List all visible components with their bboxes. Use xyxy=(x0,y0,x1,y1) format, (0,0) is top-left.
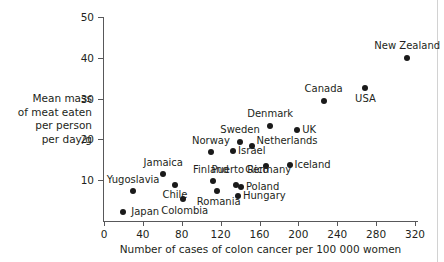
data-point xyxy=(267,123,273,129)
x-tick-mark xyxy=(221,221,222,226)
data-point-label: Hungary xyxy=(243,191,286,201)
y-axis-title: Mean mass of meat eaten per person per d… xyxy=(0,92,92,146)
x-axis-line xyxy=(103,221,418,222)
x-tick-label: 80 xyxy=(175,229,188,240)
data-point-label: USA xyxy=(355,94,376,104)
data-point-label: Poland xyxy=(246,182,279,192)
y-tick-mark xyxy=(98,17,103,18)
data-point-label: Romania xyxy=(197,197,241,207)
y-tick-label: 50 xyxy=(81,12,94,23)
data-point-label: Yugoslavia xyxy=(107,175,160,185)
data-point xyxy=(160,171,166,177)
y-tick-mark xyxy=(98,99,103,100)
data-point xyxy=(230,148,236,154)
data-point xyxy=(130,188,136,194)
data-point xyxy=(294,127,300,133)
x-tick-mark xyxy=(143,221,144,226)
x-tick-label: 240 xyxy=(327,229,347,240)
x-tick-mark xyxy=(337,221,338,226)
y-tick-label: 10 xyxy=(81,175,94,186)
data-point xyxy=(287,162,293,168)
x-tick-mark xyxy=(376,221,377,226)
x-axis-title: Number of cases of colon cancer per 100 … xyxy=(103,243,418,255)
x-tick-label: 0 xyxy=(101,229,108,240)
x-tick-mark xyxy=(298,221,299,226)
data-point-label: Colombia xyxy=(161,206,208,216)
y-tick-mark xyxy=(98,58,103,59)
y-tick-label: 20 xyxy=(81,134,94,145)
data-point-label: Japan xyxy=(131,207,159,217)
data-point-label: Iceland xyxy=(294,160,330,170)
y-tick-label: 30 xyxy=(81,93,94,104)
x-tick-mark xyxy=(260,221,261,226)
x-tick-label: 200 xyxy=(288,229,308,240)
y-tick-mark xyxy=(98,180,103,181)
data-point xyxy=(214,188,220,194)
x-tick-label: 320 xyxy=(405,229,425,240)
y-tick-label: 40 xyxy=(81,53,94,64)
x-tick-mark xyxy=(104,221,105,226)
data-point-label: Denmark xyxy=(247,109,293,119)
x-tick-label: 120 xyxy=(211,229,231,240)
data-point-label: New Zealand xyxy=(374,41,440,51)
data-point xyxy=(362,85,368,91)
data-point xyxy=(208,149,214,155)
y-axis-line xyxy=(103,17,104,222)
x-tick-mark xyxy=(415,221,416,226)
data-point-label: Norway xyxy=(192,136,230,146)
x-tick-mark xyxy=(182,221,183,226)
data-point xyxy=(120,209,126,215)
y-tick-mark xyxy=(98,139,103,140)
data-point-label: Germany xyxy=(245,165,291,175)
x-tick-label: 160 xyxy=(249,229,269,240)
y-axis-title-line-3: per person xyxy=(0,119,92,133)
scatter-chart-figure: Mean mass of meat eaten per person per d… xyxy=(0,0,444,262)
data-point-label: Canada xyxy=(305,84,343,94)
data-point xyxy=(404,55,410,61)
x-tick-label: 40 xyxy=(136,229,149,240)
figure-right-border xyxy=(437,0,438,262)
data-point-label: Netherlands xyxy=(257,136,318,146)
data-point xyxy=(249,143,255,149)
y-axis-title-line-4: per day/g xyxy=(0,133,92,147)
data-point xyxy=(321,98,327,104)
data-point xyxy=(172,182,178,188)
data-point-label: UK xyxy=(302,125,316,135)
x-tick-label: 280 xyxy=(366,229,386,240)
y-axis-title-line-1: Mean mass xyxy=(0,92,92,106)
data-point-label: Sweden xyxy=(220,125,260,135)
data-point xyxy=(180,196,186,202)
data-point xyxy=(210,178,216,184)
data-point-label: Jamaica xyxy=(144,158,183,168)
y-axis-title-line-2: of meat eaten xyxy=(0,106,92,120)
